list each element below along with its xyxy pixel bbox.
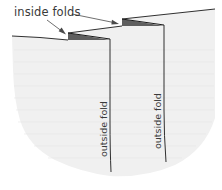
- outside-fold-label-right: outside fold: [152, 93, 163, 149]
- fabric-sheet: [12, 9, 215, 176]
- inside-folds-label: inside folds: [14, 5, 80, 19]
- fabric-illustration: [0, 0, 222, 190]
- folding-diagram: inside folds outside fold outside fold: [0, 0, 222, 190]
- arrow-to-left-fold: [47, 20, 66, 35]
- outside-fold-label-left: outside fold: [98, 101, 109, 157]
